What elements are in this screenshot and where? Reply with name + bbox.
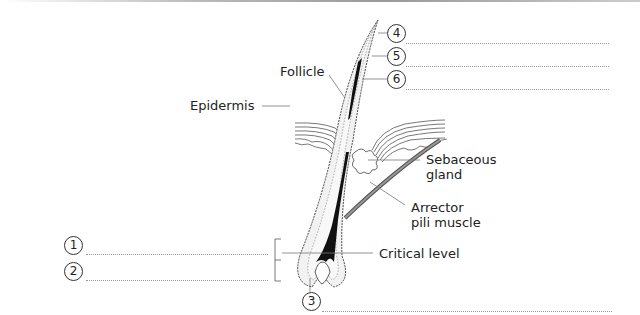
- label-critical-level: Critical level: [379, 246, 460, 261]
- answer-line-1[interactable]: [86, 254, 268, 255]
- callout-5: 5: [387, 47, 406, 66]
- callout-2: 2: [64, 262, 83, 281]
- hair-follicle-diagram: [0, 0, 640, 315]
- callout-3: 3: [302, 292, 321, 311]
- label-sebaceous-line2: gland: [426, 167, 462, 182]
- answer-line-4[interactable]: [406, 43, 609, 44]
- label-follicle: Follicle: [280, 64, 325, 79]
- answer-line-3[interactable]: [322, 311, 612, 312]
- bracket: [275, 239, 281, 281]
- label-epidermis: Epidermis: [190, 98, 255, 113]
- answer-line-6[interactable]: [406, 89, 609, 90]
- label-arrector-line1: Arrector: [411, 200, 464, 215]
- label-arrector-line2: pili muscle: [411, 215, 481, 230]
- answer-line-5[interactable]: [406, 66, 609, 67]
- callout-1: 1: [64, 236, 83, 255]
- sebaceous-gland-shape: [352, 149, 377, 174]
- answer-line-2[interactable]: [86, 280, 268, 281]
- callout-6: 6: [387, 70, 406, 89]
- label-sebaceous-line1: Sebaceous: [426, 152, 497, 167]
- callout-4: 4: [387, 24, 406, 43]
